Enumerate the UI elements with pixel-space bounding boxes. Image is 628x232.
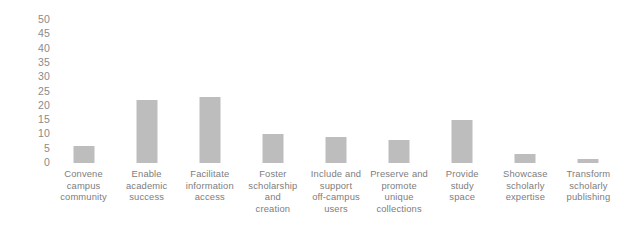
x-axis-category-label-line: Preserve and: [368, 168, 431, 180]
bar[interactable]: [199, 97, 220, 163]
x-axis-category-label-line: and: [241, 191, 304, 203]
x-axis-category-label: Fosterscholarshipandcreation: [241, 168, 304, 214]
x-axis-category-label: Convenecampuscommunity: [52, 168, 115, 203]
bar[interactable]: [325, 137, 346, 163]
bar[interactable]: [389, 140, 410, 163]
x-axis-category-label-line: scholarship: [241, 180, 304, 192]
x-axis-category-label-line: expertise: [494, 191, 557, 203]
x-axis-category-label: Include andsupportoff-campususers: [304, 168, 367, 214]
y-axis-tick-label: 45: [28, 28, 50, 39]
x-axis-category-label-line: unique: [368, 191, 431, 203]
x-axis-category-label-line: community: [52, 191, 115, 203]
x-axis-category-label-line: scholarly: [494, 180, 557, 192]
plot-area: [52, 14, 620, 170]
x-axis-category-label-line: scholarly: [557, 180, 620, 192]
x-axis-category-label-line: space: [431, 191, 494, 203]
bar-slot: [52, 14, 115, 163]
y-axis-tick-label: 15: [28, 114, 50, 125]
x-axis-category-label-line: Foster: [241, 168, 304, 180]
x-axis-category-label-line: success: [115, 191, 178, 203]
y-axis-tick-label: 50: [28, 14, 50, 25]
x-axis-category-labels: ConvenecampuscommunityEnableacademicsucc…: [52, 168, 620, 228]
y-axis-tick-label: 35: [28, 57, 50, 68]
x-axis-category-label-line: academic: [115, 180, 178, 192]
y-axis-tick-label: 0: [28, 157, 50, 168]
x-axis-category-label: Showcasescholarlyexpertise: [494, 168, 557, 203]
y-axis-tick-label: 10: [28, 128, 50, 139]
y-axis-tick-label: 30: [28, 71, 50, 82]
x-axis-category-label-line: access: [178, 191, 241, 203]
x-axis-category-label-line: information: [178, 180, 241, 192]
x-axis-category-label-line: Include and: [304, 168, 367, 180]
x-axis-category-label: Preserve andpromoteuniquecollections: [368, 168, 431, 214]
bar-slot: [241, 14, 304, 163]
bar-slot: [557, 14, 620, 163]
x-axis-category-label: Transformscholarlypublishing: [557, 168, 620, 203]
bar-slot: [368, 14, 431, 163]
bar[interactable]: [452, 120, 473, 163]
y-axis-tick-label: 20: [28, 100, 50, 111]
bar-slot: [304, 14, 367, 163]
bar[interactable]: [136, 100, 157, 163]
x-axis-category-label-line: Provide: [431, 168, 494, 180]
x-axis-category-label: Enableacademicsuccess: [115, 168, 178, 203]
bar-slot: [494, 14, 557, 163]
bar[interactable]: [578, 159, 599, 163]
x-axis-category-label-line: support: [304, 180, 367, 192]
x-axis-category-label-line: off-campus: [304, 191, 367, 203]
x-axis-category-label-line: publishing: [557, 191, 620, 203]
x-axis-category-label-line: Transform: [557, 168, 620, 180]
y-axis-tick-label: 5: [28, 143, 50, 154]
x-axis-category-label-line: creation: [241, 203, 304, 215]
y-axis-tick-label: 25: [28, 86, 50, 97]
x-axis-category-label-line: Convene: [52, 168, 115, 180]
x-axis-category-label-line: Enable: [115, 168, 178, 180]
bar-slot: [115, 14, 178, 163]
x-axis-category-label-line: collections: [368, 203, 431, 215]
x-axis-category-label-line: campus: [52, 180, 115, 192]
bar-chart: 05101520253035404550 Convenecampuscommun…: [0, 0, 628, 232]
x-axis-category-label: Facilitateinformationaccess: [178, 168, 241, 203]
x-axis-category-label-line: Showcase: [494, 168, 557, 180]
bar-slot: [431, 14, 494, 163]
x-axis-category-label-line: Facilitate: [178, 168, 241, 180]
bar[interactable]: [515, 154, 536, 163]
x-axis-category-label-line: promote: [368, 180, 431, 192]
bar[interactable]: [73, 146, 94, 163]
x-axis-category-label: Providestudyspace: [431, 168, 494, 203]
bars-layer: [52, 14, 620, 163]
y-axis: 05101520253035404550: [28, 14, 50, 170]
y-axis-tick-label: 40: [28, 43, 50, 54]
x-axis-category-label-line: study: [431, 180, 494, 192]
bar[interactable]: [262, 134, 283, 163]
x-axis-category-label-line: users: [304, 203, 367, 215]
bar-slot: [178, 14, 241, 163]
